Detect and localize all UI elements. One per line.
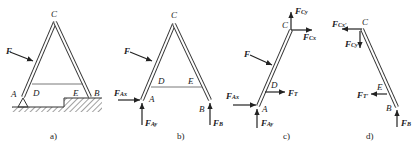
svg-text:B: B xyxy=(386,103,392,113)
svg-text:d): d) xyxy=(366,131,374,141)
force-F-label: F xyxy=(5,46,12,56)
svg-text:FB: FB xyxy=(400,118,411,128)
svg-text:FAy: FAy xyxy=(144,118,158,128)
figure-c: FCy FCx C F FT D FAx FAy A c) xyxy=(225,6,316,141)
svg-text:b): b) xyxy=(177,131,185,141)
svg-text:c): c) xyxy=(283,131,290,141)
svg-text:C: C xyxy=(362,17,369,27)
svg-text:E: E xyxy=(187,76,194,86)
svg-text:FCy: FCy xyxy=(294,6,308,16)
svg-text:D: D xyxy=(157,76,165,86)
figure-a: F C A D E B a) xyxy=(5,9,102,141)
svg-text:FAx: FAx xyxy=(113,88,127,98)
point-E-label: E xyxy=(72,88,79,98)
svg-text:FB: FB xyxy=(212,118,223,128)
point-D-label: D xyxy=(32,88,40,98)
svg-text:E: E xyxy=(376,82,383,92)
point-C-label: C xyxy=(51,9,58,19)
figure-b: F FAx FAy FB C A D E B b) xyxy=(113,10,223,141)
svg-text:D: D xyxy=(270,80,278,90)
svg-text:A: A xyxy=(261,104,268,114)
free-body-diagram: F C A D E B a) F FAx FAy FB C A D E B b)… xyxy=(0,0,419,153)
svg-text:FCx: FCx xyxy=(302,32,316,42)
svg-text:C: C xyxy=(171,10,178,20)
svg-text:FCy′: FCy′ xyxy=(344,39,360,49)
caption-a: a) xyxy=(50,131,57,141)
figure-d: FCx′ FCy′ C FT′ E B FB d) xyxy=(331,17,411,141)
svg-text:F: F xyxy=(243,49,250,59)
svg-text:FT: FT xyxy=(287,88,298,98)
point-A-label: A xyxy=(10,89,17,99)
svg-text:C: C xyxy=(282,20,289,30)
svg-text:FAy: FAy xyxy=(260,118,274,128)
svg-text:FAx: FAx xyxy=(225,91,239,101)
svg-text:B: B xyxy=(199,104,205,114)
svg-text:FT′: FT′ xyxy=(356,90,369,100)
point-B-label: B xyxy=(94,88,100,98)
svg-text:A: A xyxy=(148,94,155,104)
svg-text:FCx′: FCx′ xyxy=(331,19,347,29)
svg-text:F: F xyxy=(123,46,130,56)
